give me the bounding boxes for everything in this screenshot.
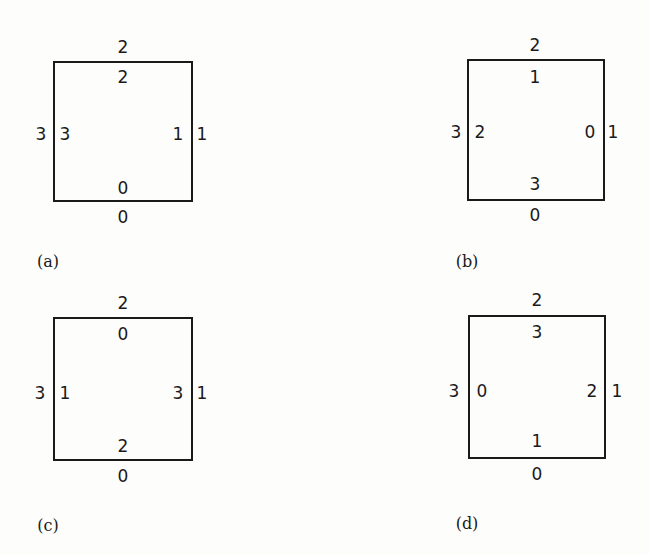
outer-right-label: 1 — [607, 383, 627, 400]
outer-top-label: 2 — [527, 292, 547, 309]
outer-bottom-label: 0 — [527, 466, 547, 483]
inner-left-label: 0 — [472, 383, 492, 400]
outer-left-label: 3 — [444, 383, 464, 400]
inner-bottom-label: 1 — [527, 433, 547, 450]
inner-top-label: 3 — [527, 324, 547, 341]
panel-d: 2 3 3 0 2 1 1 0 (d) — [0, 0, 649, 555]
caption-d: (d) — [456, 516, 479, 532]
inner-right-label: 2 — [582, 383, 602, 400]
